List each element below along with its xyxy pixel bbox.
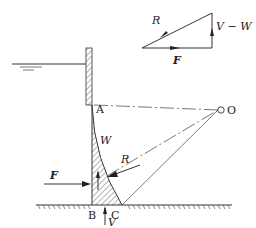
ground-tick (68, 205, 70, 209)
ground-tick (228, 205, 230, 209)
wall (86, 48, 92, 105)
triangle-r-label: R (151, 14, 160, 27)
ground-tick (48, 205, 50, 209)
force-r-arrowhead (107, 171, 118, 177)
force-v-arrowhead (103, 206, 107, 214)
gate (92, 105, 122, 205)
ground-tick (168, 205, 170, 209)
ground-tick (43, 205, 45, 209)
label-force-f: F (49, 169, 59, 182)
water-surface (12, 64, 86, 70)
ground-tick (188, 205, 190, 209)
diagram-canvas: R F V − W A B (0, 0, 256, 228)
triangle-vw-arrowhead (210, 28, 214, 36)
ground-tick (158, 205, 160, 209)
ground-tick (148, 205, 150, 209)
ground-tick (138, 205, 140, 209)
ground-tick (78, 205, 80, 209)
ground-tick (198, 205, 200, 209)
ground-hatch (38, 205, 230, 209)
force-triangle: R F V − W (142, 13, 253, 67)
ground-tick (63, 205, 65, 209)
ground-tick (58, 205, 60, 209)
ground-tick (193, 205, 195, 209)
triangle-f-arrowhead (170, 46, 180, 50)
ground-tick (53, 205, 55, 209)
label-force-w: W (100, 134, 113, 147)
ground-tick (83, 205, 85, 209)
label-point-a: A (95, 103, 105, 116)
label-force-r: R (120, 153, 129, 166)
wall-body (86, 48, 92, 105)
ground-tick (128, 205, 130, 209)
ground-tick (208, 205, 210, 209)
point-o-marker (218, 107, 224, 113)
ground-tick (163, 205, 165, 209)
ground-tick (73, 205, 75, 209)
ground-tick (153, 205, 155, 209)
label-force-v: V (108, 216, 117, 228)
force-f-arrowhead (82, 181, 91, 187)
line-a-to-o (94, 105, 218, 110)
ground-tick (218, 205, 220, 209)
label-point-o: O (227, 104, 236, 117)
ground (36, 205, 232, 209)
gate-hatched-region (92, 105, 122, 205)
ground-tick (173, 205, 175, 209)
ground-tick (38, 205, 40, 209)
line-r-action-to-o (107, 110, 218, 176)
ground-tick (143, 205, 145, 209)
ground-tick (183, 205, 185, 209)
triangle-f-label: F (172, 54, 182, 67)
triangle-vw-label: V − W (216, 20, 253, 33)
ground-tick (223, 205, 225, 209)
ground-tick (203, 205, 205, 209)
ground-tick (133, 205, 135, 209)
ground-tick (213, 205, 215, 209)
label-point-b: B (88, 209, 96, 222)
line-c-to-o (122, 110, 218, 205)
ground-tick (178, 205, 180, 209)
